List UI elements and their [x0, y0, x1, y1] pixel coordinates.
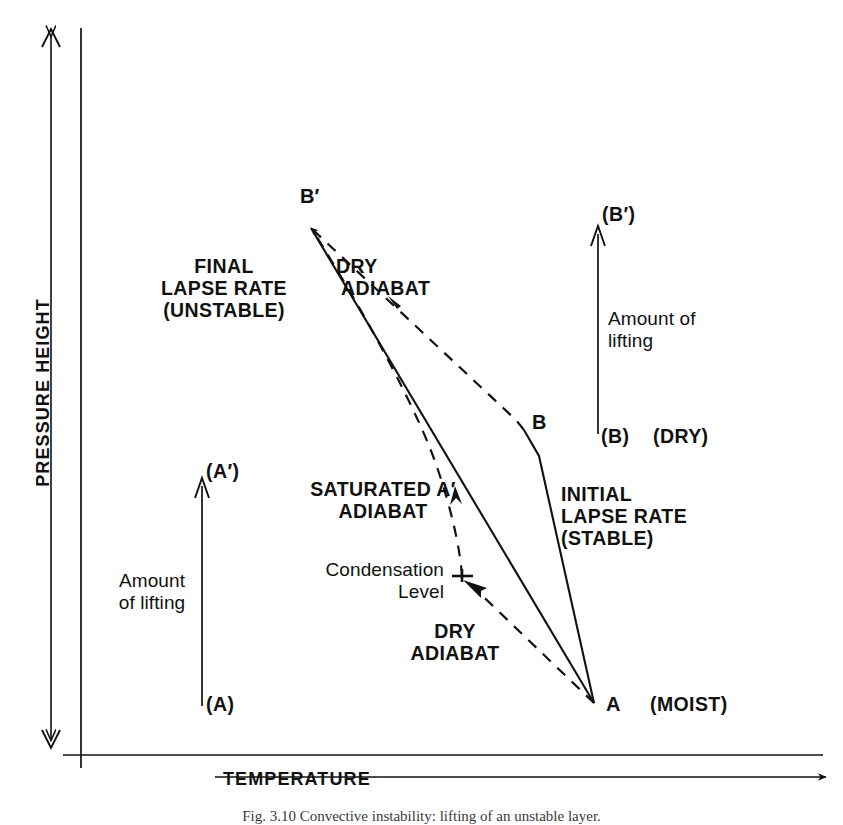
dry-adiabat-upper-label: DRY ADIABAT	[336, 255, 430, 299]
point-label-b-paren: (B)	[601, 425, 629, 447]
point-label-b-prime-paren: (B′)	[602, 203, 635, 225]
point-label-b: B	[532, 411, 546, 434]
initial-lapse-rate-label: INITIAL LAPSE RATE (STABLE)	[561, 483, 687, 550]
convective-instability-diagram: PRESSURE HEIGHT TEMPERATURE B′ B A FINAL…	[0, 0, 843, 825]
point-label-b-prime: B′	[300, 185, 319, 208]
condensation-level-tick	[452, 569, 473, 582]
point-label-a-prime-paren: (A′)	[206, 460, 239, 482]
point-label-a: A	[606, 693, 620, 716]
amount-of-lifting-left-label: Amount of lifting	[108, 570, 196, 613]
figure-caption: Fig. 3.10 Convective instability: liftin…	[0, 808, 843, 825]
initial-lapse-rate-line	[524, 430, 594, 703]
final-lapse-rate-label: FINAL LAPSE RATE (UNSTABLE)	[134, 255, 314, 322]
dry-adiabat-lower-label: DRY ADIABAT	[380, 620, 530, 664]
y-axis-title: PRESSURE HEIGHT	[33, 288, 54, 498]
moist-label: (MOIST)	[650, 693, 728, 715]
condensation-level-label: Condensation Level	[268, 559, 444, 602]
point-label-a-paren: (A)	[206, 693, 234, 715]
dry-label: (DRY)	[653, 425, 708, 447]
amount-of-lifting-right-label: Amount of lifting	[608, 308, 696, 351]
saturated-adiabat-label: SATURATED A′ ADIABAT	[290, 478, 476, 522]
x-axis-title: TEMPERATURE	[223, 769, 371, 790]
